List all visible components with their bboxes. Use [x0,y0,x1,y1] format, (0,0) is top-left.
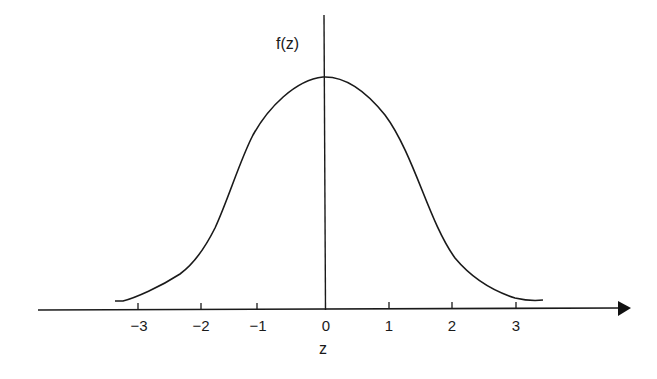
x-tick-label-neg1: −1 [249,318,266,333]
x-tick-label-neg3: −3 [130,318,147,333]
x-tick-label-2: 2 [448,318,456,333]
x-axis-arrowhead-icon [618,301,631,316]
x-tick-label-1: 1 [385,318,393,333]
x-tick-label-3: 3 [512,318,520,333]
y-axis-line [324,15,326,310]
y-axis-label: f(z) [276,36,299,52]
x-axis-label: z [319,341,327,357]
x-tick-label-neg2: −2 [192,318,209,333]
x-tick-label-0: 0 [322,318,330,333]
density-curve [115,77,543,301]
x-axis-line [38,308,620,310]
